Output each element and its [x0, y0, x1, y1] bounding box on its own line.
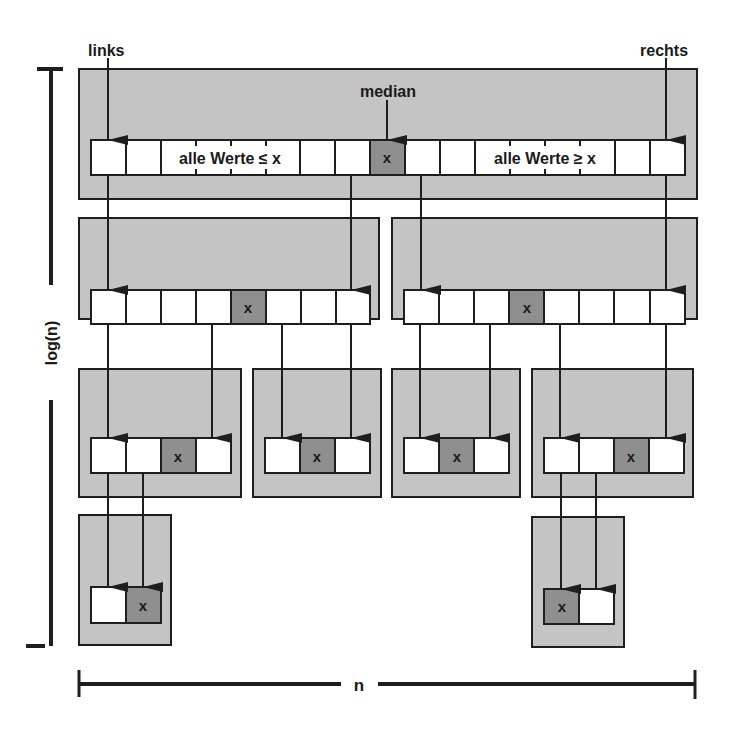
median-symbol: x [139, 597, 148, 614]
array-cell [91, 438, 126, 473]
array-cell [301, 290, 336, 324]
array-cell [266, 290, 301, 324]
array-cell [649, 438, 684, 473]
array-cell [404, 438, 439, 473]
partition-box [532, 517, 624, 647]
width-axis-label: n [354, 676, 364, 695]
array-cell [474, 438, 509, 473]
array-cell [335, 438, 370, 473]
array-cell [126, 438, 161, 473]
right-region-label: alle Werte ≥ x [494, 150, 596, 167]
array-cell [196, 438, 231, 473]
width-bracket [79, 670, 695, 699]
array-cell [579, 290, 614, 324]
partition-box [392, 369, 520, 497]
partition-box [79, 369, 241, 497]
array-cell [650, 290, 685, 324]
array-cell [579, 438, 614, 473]
median-symbol: x [558, 598, 567, 615]
array-cell [196, 290, 231, 324]
partition-box [532, 369, 693, 497]
median-label: median [360, 83, 416, 100]
array-cell [91, 587, 126, 623]
array-cell [265, 438, 300, 473]
median-symbol: x [174, 448, 183, 465]
median-symbol: x [383, 149, 392, 166]
median-symbol: x [523, 299, 532, 316]
partition-level-1: alle Werte ≤ x alle Werte ≥ x x median [79, 69, 697, 199]
median-symbol: x [627, 448, 636, 465]
array-cell [126, 140, 161, 175]
array-cell [91, 140, 126, 175]
array-cell [300, 140, 335, 175]
right-pointer-label: rechts [640, 42, 688, 59]
left-pointer-label: links [88, 42, 125, 59]
array-cell [615, 140, 650, 175]
median-partition-diagram: alle Werte ≤ x alle Werte ≥ x x median l… [0, 0, 740, 735]
array-cell [440, 140, 475, 175]
array-cell [544, 290, 579, 324]
array-cell [126, 290, 161, 324]
partition-level-4: x x [79, 515, 624, 647]
array-cell [91, 290, 126, 324]
array-cell [404, 290, 439, 324]
partition-box [79, 515, 171, 645]
array-cell [614, 290, 650, 324]
partition-level-3: x x x x [79, 369, 693, 497]
partition-level-2: x x [79, 218, 697, 324]
median-symbol: x [453, 448, 462, 465]
array-cell [439, 290, 474, 324]
median-symbol: x [313, 448, 322, 465]
array-cell [650, 140, 685, 175]
array-cell [405, 140, 440, 175]
height-axis-label: log(n) [43, 321, 60, 365]
array-cell [335, 140, 370, 175]
left-region-label: alle Werte ≤ x [179, 150, 281, 167]
median-symbol: x [244, 299, 253, 316]
array-cell [544, 438, 579, 473]
array-cell [336, 290, 370, 324]
array-cell [161, 290, 196, 324]
array-cell [474, 290, 509, 324]
partition-box [253, 369, 381, 497]
array-cell [579, 589, 614, 624]
